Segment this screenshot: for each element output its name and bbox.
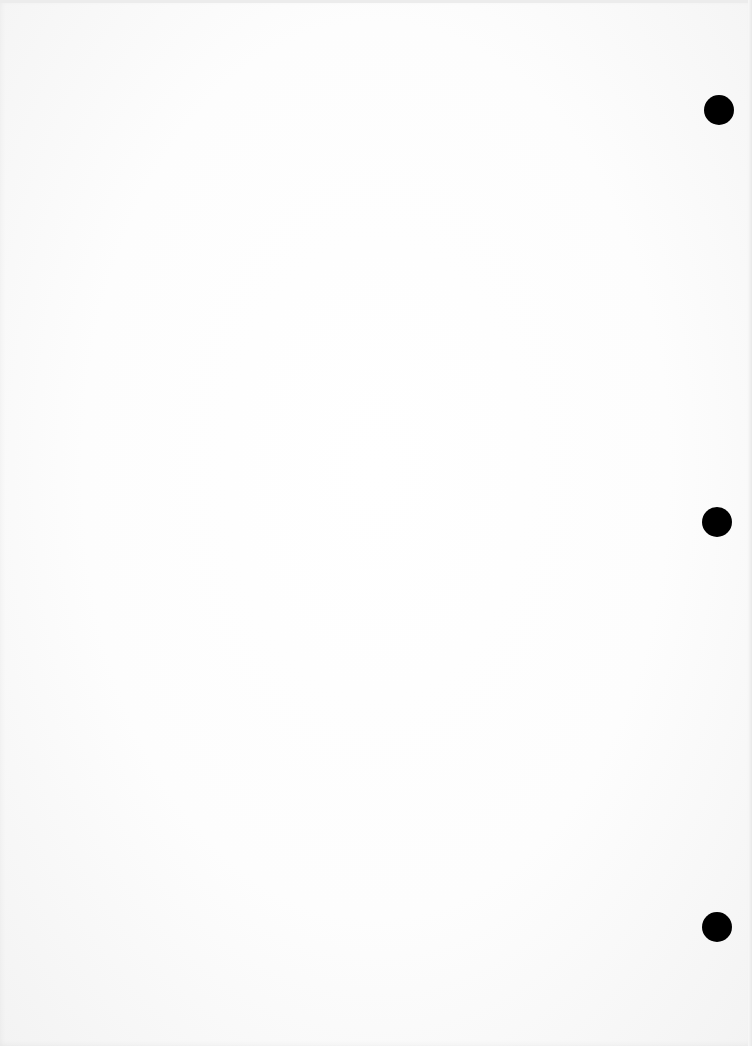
binder-hole-middle xyxy=(702,507,732,537)
page-right-edge xyxy=(748,0,752,1046)
blank-page xyxy=(0,0,752,1046)
binder-hole-bottom xyxy=(702,912,732,942)
binder-hole-top xyxy=(704,95,734,125)
page-top-edge xyxy=(0,0,752,3)
